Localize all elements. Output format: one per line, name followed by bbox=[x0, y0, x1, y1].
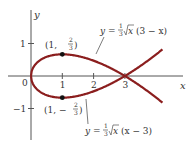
point-bottom-close: ) bbox=[79, 105, 83, 115]
x-tick-label: 2 bbox=[91, 80, 97, 90]
point-top bbox=[60, 52, 65, 57]
y-axis-label: y bbox=[33, 9, 40, 20]
upper-label-leader bbox=[96, 37, 104, 54]
x-axis-label: x bbox=[180, 80, 186, 91]
lower-equation-label: y = 1 3 x (x − 3) bbox=[84, 122, 152, 137]
lower-eq-num: 1 bbox=[104, 122, 108, 129]
y-tick-label: 1 bbox=[20, 39, 26, 49]
origin-label: 0 bbox=[22, 78, 28, 88]
lower-eq-radicand: x bbox=[113, 126, 118, 136]
upper-equation-label: y = 1 3 x (3 − x) bbox=[99, 22, 167, 37]
point-bottom bbox=[60, 95, 65, 100]
lower-eq-suffix: (x − 3) bbox=[121, 126, 152, 136]
point-bottom-num: 2 bbox=[74, 101, 78, 108]
point-top-close: ) bbox=[74, 40, 78, 50]
point-top-open: (1, bbox=[45, 40, 57, 50]
curve-chart: x y 0 123 1−1 (1, 2 3 ) (1, − 2 3 ) y = … bbox=[0, 0, 194, 146]
point-bottom-den: 3 bbox=[74, 109, 78, 116]
x-tick-label: 1 bbox=[60, 80, 66, 90]
lower-label-leader bbox=[86, 99, 88, 124]
upper-eq-num: 1 bbox=[119, 22, 123, 29]
point-bottom-open: (1, − bbox=[44, 105, 67, 115]
point-bottom-label: (1, − 2 3 ) bbox=[44, 101, 83, 116]
upper-eq-suffix: (3 − x) bbox=[136, 26, 167, 36]
upper-eq-den: 3 bbox=[119, 30, 123, 37]
lower-eq-prefix: y = bbox=[84, 126, 101, 136]
point-top-den: 3 bbox=[69, 44, 73, 51]
point-top-label: (1, 2 3 ) bbox=[45, 36, 78, 51]
upper-eq-radicand: x bbox=[128, 26, 133, 36]
y-tick-label: −1 bbox=[13, 104, 26, 114]
lower-eq-den: 3 bbox=[104, 130, 108, 137]
x-tick-label: 3 bbox=[122, 80, 128, 90]
upper-eq-prefix: y = bbox=[99, 26, 116, 36]
point-top-num: 2 bbox=[69, 36, 73, 43]
